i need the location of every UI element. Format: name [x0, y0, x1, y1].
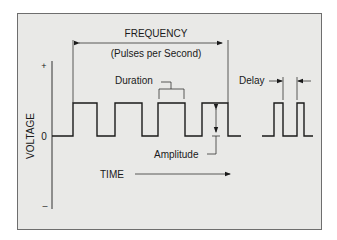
- axis-minus-label: –: [42, 201, 47, 211]
- axis-plus-label: +: [41, 61, 46, 71]
- delay-label: Delay: [239, 75, 265, 86]
- diagram-panel: [18, 14, 322, 230]
- pulse-waveform-diagram: + 0 – VOLTAGE FREQUENCY (Pulses per Seco…: [0, 0, 337, 240]
- voltage-axis-title: VOLTAGE: [25, 113, 36, 159]
- time-label: TIME: [100, 169, 124, 180]
- frequency-sublabel: (Pulses per Second): [111, 48, 202, 59]
- axis-zero-label: 0: [41, 131, 47, 142]
- duration-label: Duration: [115, 75, 153, 86]
- frequency-label: FREQUENCY: [125, 28, 188, 39]
- amplitude-label: Amplitude: [154, 149, 199, 160]
